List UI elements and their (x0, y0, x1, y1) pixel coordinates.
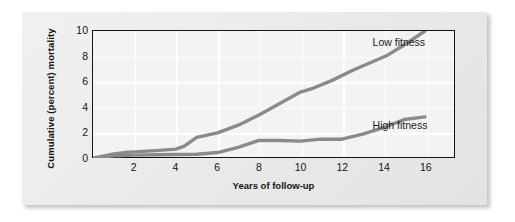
y-axis-title: Cumulative (percent) mortality (40, 18, 60, 178)
x-tick-label: 10 (295, 161, 307, 173)
x-axis-tick-labels: 246810121416 (92, 161, 455, 177)
x-tick-label: 4 (173, 161, 179, 173)
series-label: Low fitness (373, 36, 426, 48)
x-tick-label: 12 (337, 161, 349, 173)
plot-area: Low fitnessHigh fitness (92, 30, 455, 158)
x-tick-label: 2 (131, 161, 137, 173)
y-tick-label: 10 (76, 24, 88, 36)
y-tick-label: 8 (82, 50, 88, 62)
y-axis-tick-labels: 0246810 (62, 30, 88, 158)
x-tick-label: 8 (256, 161, 262, 173)
x-tick-label: 6 (214, 161, 220, 173)
series-layer (93, 31, 454, 158)
y-tick-label: 6 (82, 75, 88, 87)
x-tick-label: 16 (420, 161, 432, 173)
y-axis-title-text: Cumulative (percent) mortality (45, 28, 56, 168)
y-tick-label: 4 (82, 101, 88, 113)
figure-container: Cumulative (percent) mortality 0246810 L… (0, 0, 515, 222)
x-axis-title: Years of follow-up (92, 180, 455, 191)
y-tick-label: 2 (82, 126, 88, 138)
x-tick-label: 14 (378, 161, 390, 173)
y-tick-label: 0 (82, 152, 88, 164)
series-label: High fitness (373, 119, 428, 131)
